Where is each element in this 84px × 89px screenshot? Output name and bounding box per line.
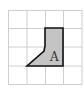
shape-label: A [49, 50, 59, 64]
grid-diagram: A [0, 0, 84, 89]
